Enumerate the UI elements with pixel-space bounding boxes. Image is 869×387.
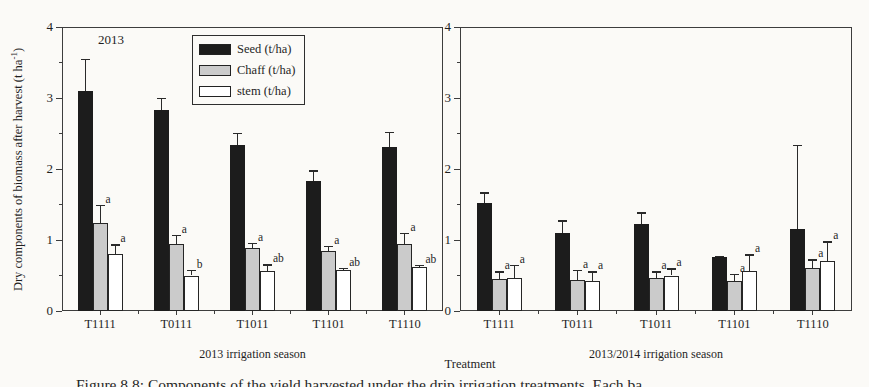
significance-letter: ab	[273, 252, 295, 264]
error-bar-cap	[667, 268, 676, 269]
error-bar-cap	[495, 271, 504, 272]
bar-chaff	[649, 278, 664, 311]
error-bar	[641, 212, 642, 224]
bar-chaff	[805, 268, 820, 311]
legend-item-stem: stem (t/ha)	[199, 82, 304, 100]
x-minor-tick	[773, 311, 774, 314]
x-minor-tick	[538, 311, 539, 314]
x-tick-label: T0111	[144, 317, 208, 332]
panel-annotation: 2013	[98, 32, 124, 48]
bar-seed	[382, 147, 397, 311]
x-tick-label: T1110	[373, 317, 437, 332]
legend-label-stem: stem (t/ha)	[237, 84, 291, 99]
significance-letter: a	[182, 223, 204, 235]
error-bar	[562, 220, 563, 233]
bar-stem	[260, 271, 275, 311]
figure-page: Dry components of biomass after harvest …	[0, 0, 869, 387]
bar-seed	[634, 224, 649, 311]
y-minor-tick	[457, 204, 461, 205]
y-tick	[454, 311, 460, 312]
y-tick-label: 2	[31, 160, 53, 178]
x-tick	[734, 311, 735, 315]
error-bar-cap	[96, 205, 105, 206]
error-bar	[115, 244, 116, 254]
bar-seed	[230, 145, 245, 311]
significance-letter: ab	[425, 253, 447, 265]
x-tick	[404, 311, 405, 315]
error-bar-cap	[715, 256, 724, 257]
error-bar-cap	[510, 265, 519, 266]
error-bar-cap	[263, 264, 272, 265]
legend-label-seed: Seed (t/ha)	[237, 42, 292, 57]
x-tick	[812, 311, 813, 315]
significance-letter: a	[818, 247, 840, 259]
y-axis-label-text: Dry components of biomass after harvest …	[11, 60, 25, 292]
significance-letter: a	[677, 256, 699, 268]
error-bar	[514, 265, 515, 278]
x-minor-tick	[616, 311, 617, 314]
y-tick	[56, 98, 62, 99]
y-axis-label-superscript: -1	[9, 52, 19, 60]
y-tick-label: 4	[429, 18, 451, 36]
significance-letter: a	[334, 234, 356, 246]
error-bar	[313, 170, 314, 181]
x-minor-tick	[138, 311, 139, 314]
bar-chaff	[169, 244, 184, 311]
y-minor-tick	[457, 62, 461, 63]
y-tick	[56, 311, 62, 312]
x-tick-label: T0111	[546, 317, 610, 332]
error-bar-cap	[745, 254, 754, 255]
error-bar-cap	[652, 271, 661, 272]
x-tick	[328, 311, 329, 315]
x-tick	[577, 311, 578, 315]
bar-chaff	[570, 280, 585, 311]
error-bar	[749, 254, 750, 270]
error-bar-cap	[81, 59, 90, 60]
y-minor-tick	[59, 275, 63, 276]
bar-seed	[790, 229, 805, 311]
error-bar-cap	[808, 259, 817, 260]
y-tick-label: 2	[429, 160, 451, 178]
bar-seed	[477, 203, 492, 311]
error-bar	[100, 205, 101, 223]
x-tick	[499, 311, 500, 315]
y-minor-tick	[59, 62, 63, 63]
error-bar-cap	[309, 170, 318, 171]
error-bar-cap	[233, 133, 242, 134]
x-minor-tick	[214, 311, 215, 314]
bar-stem	[664, 276, 679, 312]
x-tick	[100, 311, 101, 315]
error-bar-cap	[400, 233, 409, 234]
error-bar-cap	[324, 246, 333, 247]
x-minor-tick	[366, 311, 367, 314]
significance-letter: a	[106, 193, 128, 205]
bar-chaff	[93, 223, 108, 311]
x-tick-label: T1011	[624, 317, 688, 332]
bar-chaff	[397, 244, 412, 311]
error-bar	[161, 98, 162, 110]
bar-chaff	[492, 279, 507, 311]
chaff-swatch-icon	[199, 65, 231, 76]
significance-letter: a	[833, 229, 855, 241]
bar-seed	[712, 257, 727, 311]
error-bar-cap	[385, 132, 394, 133]
error-bar-cap	[415, 265, 424, 266]
error-bar	[797, 145, 798, 229]
significance-letter: ab	[349, 256, 371, 268]
x-minor-tick	[695, 311, 696, 314]
error-bar	[592, 271, 593, 281]
bar-stem	[336, 270, 351, 311]
error-bar-cap	[248, 243, 257, 244]
x-tick-label: T1011	[221, 317, 285, 332]
y-minor-tick	[457, 133, 461, 134]
bar-stem	[108, 254, 123, 311]
significance-letter: b	[197, 258, 219, 270]
error-bar	[484, 192, 485, 203]
x-minor-tick	[290, 311, 291, 314]
bar-seed	[154, 110, 169, 311]
significance-letter: a	[520, 253, 542, 265]
error-bar-cap	[187, 270, 196, 271]
x-tick-label: T1111	[467, 317, 531, 332]
y-tick-label: 3	[31, 89, 53, 107]
y-tick	[454, 27, 460, 28]
